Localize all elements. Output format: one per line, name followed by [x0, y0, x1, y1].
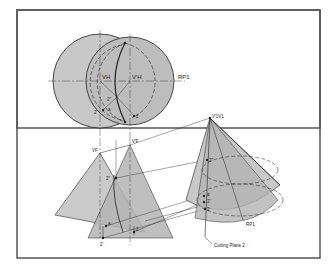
label-2p-front: 2' [100, 242, 104, 247]
label-aux-vertex: V'1V1 [212, 114, 224, 119]
label-v-prime-h: V'H [132, 74, 141, 80]
front-view: VF V'F 2" a 2 2' [55, 139, 173, 247]
label-rp1-top: RP1 [178, 74, 190, 80]
label-rp1-aux: RP1 [246, 222, 255, 227]
top-view: VH V'H RP1 2" a 2' 2 [48, 30, 190, 140]
label-2dp-aux: 2" [209, 158, 214, 163]
label-2dp-front: 2" [106, 176, 111, 181]
label-cutting-plane: Cutting Plane 2 [214, 243, 245, 248]
label-2p-aux: 2' [207, 199, 211, 204]
label-2p-top: 2' [94, 110, 98, 115]
label-vf: VF [92, 148, 98, 153]
label-vh: VH [102, 74, 110, 80]
frame-border-full [17, 10, 320, 258]
label-2dp-top: 2" [107, 97, 112, 102]
cone-intersection-diagram: VH V'H RP1 2" a 2' 2 VF V'F 2" a 2 2' [0, 0, 329, 275]
auxiliary-view: V'1V1 2" a 2' 2 RP1 Cutting Plane 2 [186, 114, 283, 248]
